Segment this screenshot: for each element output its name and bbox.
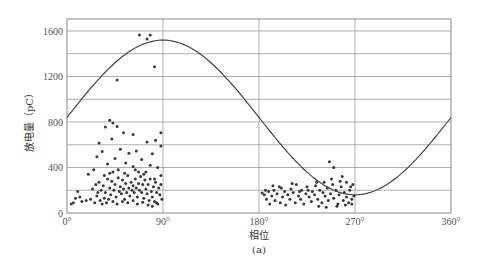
data-point: [307, 189, 310, 192]
data-point: [153, 177, 156, 180]
data-point: [274, 199, 277, 202]
data-point: [323, 181, 326, 184]
data-point: [314, 184, 317, 187]
data-point: [120, 192, 123, 195]
data-point: [146, 192, 149, 195]
data-point: [122, 131, 125, 134]
data-point: [141, 183, 144, 186]
data-point: [132, 184, 135, 187]
data-point: [151, 205, 154, 208]
data-point: [132, 133, 135, 136]
x-tick-label: 180°: [250, 216, 269, 227]
data-point: [276, 192, 279, 195]
data-point: [94, 183, 97, 186]
data-point: [306, 185, 309, 188]
y-tick-label: 1200: [43, 71, 63, 82]
data-point: [159, 144, 162, 147]
data-point: [133, 191, 136, 194]
data-point: [127, 152, 130, 155]
data-point: [281, 196, 284, 199]
data-point: [335, 205, 338, 208]
data-point: [134, 177, 137, 180]
data-point: [340, 185, 343, 188]
data-point: [112, 189, 115, 192]
x-axis-ticks: 0°90°180°270°360°: [63, 216, 461, 227]
data-point: [149, 177, 152, 180]
data-point: [154, 139, 157, 142]
y-axis-label: 放电量（pC）: [23, 88, 35, 152]
data-point: [157, 187, 160, 190]
data-point: [150, 190, 153, 193]
data-point: [116, 125, 119, 128]
data-point: [78, 196, 81, 199]
data-point: [297, 194, 300, 197]
data-point: [122, 188, 125, 191]
data-point: [347, 201, 350, 204]
data-point: [119, 185, 122, 188]
data-point: [159, 131, 162, 134]
data-point: [116, 202, 119, 205]
data-point: [155, 201, 158, 204]
data-point: [148, 199, 151, 202]
data-point: [117, 168, 120, 171]
data-point: [140, 158, 143, 161]
data-point: [108, 119, 111, 122]
data-point: [138, 189, 141, 192]
data-point: [283, 190, 286, 193]
data-point: [124, 161, 127, 164]
data-point: [99, 199, 102, 202]
data-point: [159, 174, 162, 177]
data-point: [107, 198, 110, 201]
data-point: [304, 192, 307, 195]
data-point: [139, 175, 142, 178]
data-point: [272, 189, 275, 192]
data-point: [160, 198, 163, 201]
data-point: [151, 196, 154, 199]
data-point: [143, 179, 146, 182]
data-point: [127, 187, 130, 190]
data-point: [294, 201, 297, 204]
y-tick-label: 1600: [43, 26, 63, 37]
data-point: [104, 126, 107, 129]
data-point: [330, 177, 333, 180]
data-point: [111, 171, 114, 174]
data-point: [329, 192, 332, 195]
data-point: [142, 173, 145, 176]
data-point: [147, 204, 150, 207]
data-point: [118, 190, 121, 193]
data-point: [348, 189, 351, 192]
y-axis-ticks: 040080012001600: [43, 26, 63, 219]
data-point: [350, 202, 353, 205]
data-point: [152, 185, 155, 188]
data-point: [151, 152, 154, 155]
data-point: [308, 196, 311, 199]
data-point: [131, 189, 134, 192]
data-point: [291, 182, 294, 185]
data-point: [280, 187, 283, 190]
data-point: [271, 184, 274, 187]
data-point: [98, 181, 101, 184]
data-point: [302, 202, 305, 205]
data-point: [137, 171, 140, 174]
data-point: [147, 183, 150, 186]
data-point: [327, 199, 330, 202]
data-point: [132, 199, 135, 202]
data-point: [295, 183, 298, 186]
data-point: [87, 173, 90, 176]
data-point: [136, 196, 139, 199]
data-point: [135, 150, 138, 153]
data-point: [93, 201, 96, 204]
data-point: [121, 179, 124, 182]
x-tick-label: 90°: [156, 216, 170, 227]
data-point: [156, 166, 159, 169]
data-point: [115, 196, 118, 199]
data-point: [332, 166, 335, 169]
data-point: [116, 78, 119, 81]
data-point: [159, 183, 162, 186]
data-point: [98, 142, 101, 145]
data-point: [339, 180, 342, 183]
data-point: [74, 197, 77, 200]
x-tick-label: 360°: [442, 216, 461, 227]
data-point: [132, 165, 135, 168]
data-point: [91, 188, 94, 191]
